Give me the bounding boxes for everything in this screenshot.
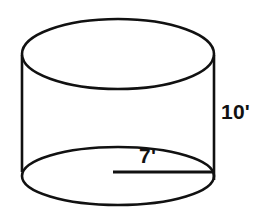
cylinder-bottom-ellipse bbox=[22, 147, 214, 205]
height-dimension-label: 10' bbox=[221, 101, 250, 122]
cylinder-top-ellipse bbox=[22, 19, 214, 89]
radius-dimension-label: 7' bbox=[139, 145, 156, 166]
cylinder-diagram: 10' 7' bbox=[0, 0, 264, 217]
